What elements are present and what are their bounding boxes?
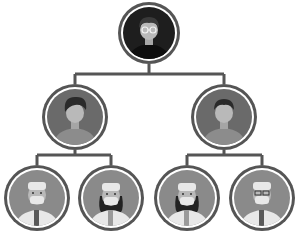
node-mid-left[interactable]	[42, 84, 108, 150]
node-bottom-4[interactable]	[229, 165, 295, 232]
node-bottom-3[interactable]	[154, 165, 220, 232]
connector-top	[75, 64, 224, 84]
connector-right	[187, 150, 262, 165]
org-chart	[0, 0, 297, 239]
connector-left	[37, 150, 111, 165]
node-bottom-2[interactable]	[78, 165, 144, 232]
node-bottom-1[interactable]	[4, 165, 70, 232]
node-top-manager[interactable]	[118, 2, 180, 64]
node-mid-right[interactable]	[191, 84, 257, 150]
